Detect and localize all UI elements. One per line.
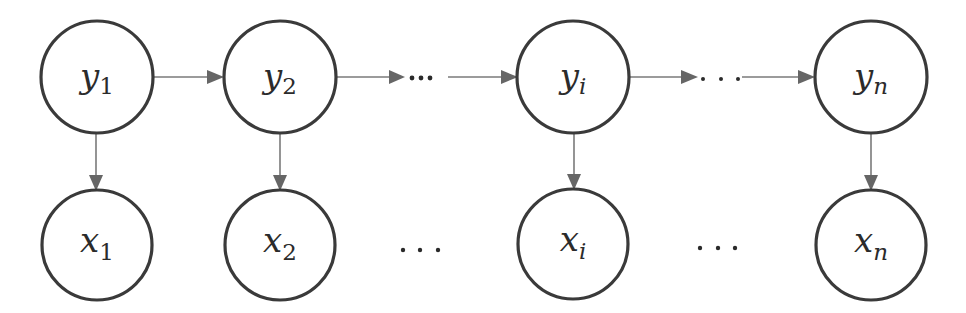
node-y2-base: y <box>261 56 283 96</box>
node-xi-base: x <box>560 219 579 259</box>
hmm-diagram: y1 y2 yi yn x1 <box>0 0 966 313</box>
node-x1: x1 <box>42 190 152 300</box>
node-x2: x2 <box>225 190 335 300</box>
node-y1-base: y <box>78 56 100 96</box>
node-x1-base: x <box>80 220 99 260</box>
ellipsis-bottom-right <box>698 246 737 250</box>
node-yi-base: y <box>558 56 580 96</box>
node-yi-sub: i <box>579 73 586 99</box>
ellipsis-bottom-left <box>401 248 440 252</box>
node-x2-sub: 2 <box>282 239 297 265</box>
ellipsis-top-left <box>410 76 433 81</box>
edge-y2-x2 <box>273 133 287 191</box>
emission-edges <box>89 133 878 191</box>
node-y2-sub: 2 <box>282 73 297 99</box>
arrow-head-icon <box>798 70 815 84</box>
node-xi-sub: i <box>579 238 586 264</box>
node-yn: yn <box>815 21 927 133</box>
node-xn-sub: n <box>873 239 888 265</box>
edge-y1-x1 <box>89 133 103 191</box>
edge-yn-xn <box>864 133 878 191</box>
node-xi: xi <box>518 189 628 299</box>
node-yn-base: y <box>852 56 874 96</box>
node-x1-sub: 1 <box>99 239 114 265</box>
arrow-head-icon <box>389 70 405 84</box>
arrow-head-icon <box>207 70 224 84</box>
node-x2-base: x <box>263 220 282 260</box>
node-yi: yi <box>517 21 629 133</box>
node-y1: y1 <box>41 21 153 133</box>
edge-y1-y2 <box>154 70 224 84</box>
node-yn-sub: n <box>873 73 888 99</box>
arrow-head-icon <box>681 70 698 84</box>
ellipsis-top-right <box>701 77 740 81</box>
node-xn: xn <box>816 190 926 300</box>
edge-yi-ellipsis <box>630 70 698 84</box>
node-y2: y2 <box>224 21 336 133</box>
node-y1-sub: 1 <box>99 73 114 99</box>
edge-ellipsis-yn <box>742 70 815 84</box>
edge-yi-xi <box>567 133 581 190</box>
node-xn-base: x <box>854 220 873 260</box>
observed-nodes: x1 x2 xi xn <box>42 189 926 300</box>
edge-y2-ellipsis <box>337 70 405 84</box>
edge-ellipsis-yi <box>448 70 518 84</box>
